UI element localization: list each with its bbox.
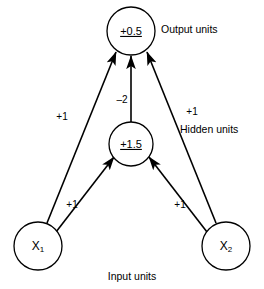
edge-x1-to-hidden: [56, 157, 114, 232]
weight-label-x1-to-output: +1: [56, 111, 68, 122]
node-input-x2-var: X: [220, 239, 228, 253]
node-input-x1-var: X: [32, 239, 40, 253]
node-output-value: +0.5: [120, 25, 142, 37]
neural-network-diagram: +0.5 +1.5 X1 X2 +1 +1 –2 +1 +1 Output un…: [0, 0, 264, 289]
edge-x1-to-output: [47, 52, 116, 223]
node-input-x2-subscript: 2: [228, 245, 233, 254]
weight-label-x2-to-hidden: +1: [174, 199, 186, 210]
weight-label-x2-to-output: +1: [186, 106, 198, 117]
node-hidden-value: +1.5: [120, 138, 142, 150]
nodes-group: +0.5 +1.5 X1 X2: [14, 7, 250, 270]
edge-x2-to-output: [147, 52, 216, 223]
edge-x2-to-hidden: [149, 157, 207, 232]
weight-label-hidden-to-output: –2: [116, 94, 128, 105]
label-output-units: Output units: [161, 23, 218, 35]
node-input-x1-subscript: 1: [40, 245, 45, 254]
network-canvas: +0.5 +1.5 X1 X2 +1 +1 –2 +1 +1 Output un…: [0, 0, 264, 289]
label-input-units: Input units: [108, 270, 156, 282]
weight-label-x1-to-hidden: +1: [66, 199, 78, 210]
label-hidden-units: Hidden units: [180, 123, 238, 135]
